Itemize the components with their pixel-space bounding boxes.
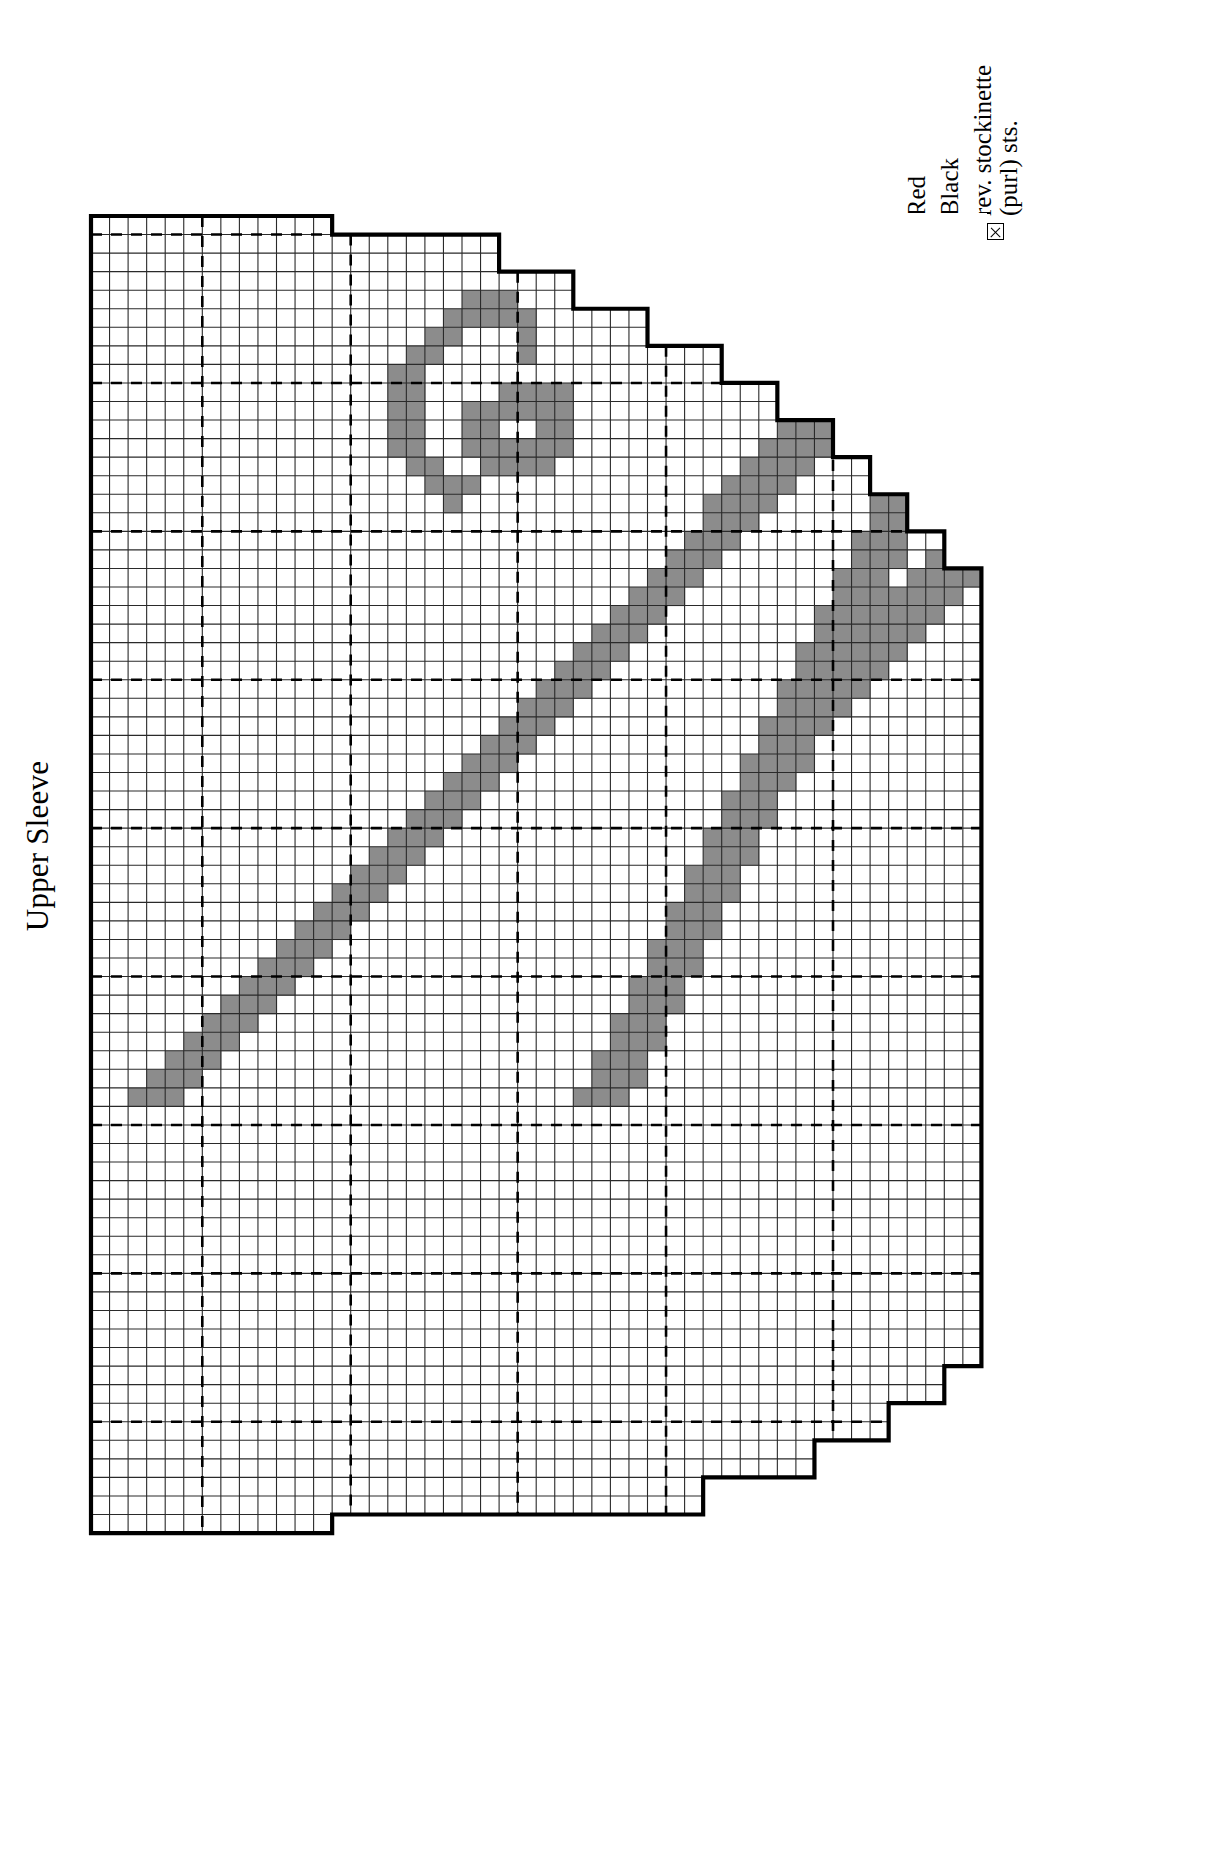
legend-label: Black — [937, 158, 963, 216]
legend-label: Red — [904, 176, 930, 216]
page-title: Upper Sleeve — [20, 746, 56, 946]
knitting-chart — [88, 213, 987, 1539]
x-box-icon — [987, 223, 1004, 240]
legend: Red Black rev. stockinette (purl) sts. — [903, 8, 1023, 240]
chart-grid — [88, 213, 987, 1539]
legend-label: rev. stockinette (purl) sts. — [970, 65, 1021, 216]
